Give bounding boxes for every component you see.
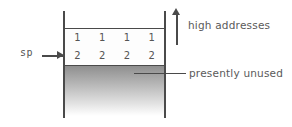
stack-cell: 2 — [90, 47, 115, 65]
stack-cell: 2 — [115, 47, 140, 65]
stack-pointer-arrow-icon — [57, 51, 64, 59]
stack-cell: 1 — [65, 29, 90, 47]
stack-row-ones: 1 1 1 1 — [65, 29, 164, 47]
unused-region-leader-line — [134, 73, 186, 74]
stack-cell: 1 — [139, 29, 164, 47]
high-addresses-label: high addresses — [188, 19, 270, 31]
stack-cell: 2 — [139, 47, 164, 65]
stack-cell: 2 — [65, 47, 90, 65]
stack-cell: 1 — [90, 29, 115, 47]
high-addresses-arrow-shaft — [176, 14, 178, 45]
stack-cell: 1 — [115, 29, 140, 47]
arrow-up-icon — [172, 8, 180, 15]
stack-row-twos: 2 2 2 2 — [65, 47, 164, 65]
stack-diagram-canvas: 1 1 1 1 2 2 2 2 sp high addresses presen… — [0, 0, 292, 127]
stack-pointer-label: sp — [20, 47, 33, 58]
presently-unused-label: presently unused — [189, 67, 283, 79]
